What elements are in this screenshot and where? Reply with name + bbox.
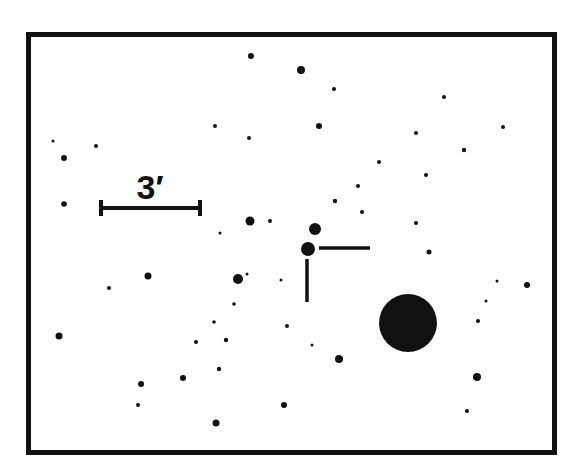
star [56,333,63,340]
star [465,409,469,413]
star [476,319,480,323]
star [233,274,243,284]
star [285,324,289,328]
star [268,219,272,223]
star [424,173,428,177]
star [232,302,236,306]
star [414,131,418,135]
scale-bar-label: 3′ [136,168,163,206]
star [335,355,343,363]
star [414,221,418,225]
star [332,87,336,91]
star [246,217,255,226]
star [501,125,505,129]
star [194,340,198,344]
star [217,367,221,371]
star [107,286,111,290]
star [61,201,67,207]
star [136,403,140,407]
star [52,140,55,143]
star [316,123,322,129]
star [247,136,251,140]
star [496,280,499,283]
finder-chart: 3′ [0,0,580,474]
star-field [52,53,531,427]
star [311,344,314,347]
star [248,53,254,59]
star [473,373,481,381]
star [212,320,216,324]
star [213,124,217,128]
star [213,420,220,427]
star [442,95,446,99]
star [485,300,488,303]
target-marker [307,248,370,302]
star [281,402,287,408]
star [309,223,321,235]
star [224,338,228,342]
star [427,250,432,255]
chart-frame [29,35,555,453]
star [61,155,67,161]
star [377,160,381,164]
star [333,199,337,203]
star [356,184,360,188]
star [94,144,98,148]
star [180,375,186,381]
star [145,273,152,280]
star [524,282,530,288]
star [138,381,144,387]
star [379,294,437,352]
star [219,232,222,235]
star [462,148,466,152]
scale-bar: 3′ [100,168,201,216]
star [301,242,315,256]
star [246,273,249,276]
star [280,279,283,282]
star [360,210,364,214]
star [297,66,305,74]
